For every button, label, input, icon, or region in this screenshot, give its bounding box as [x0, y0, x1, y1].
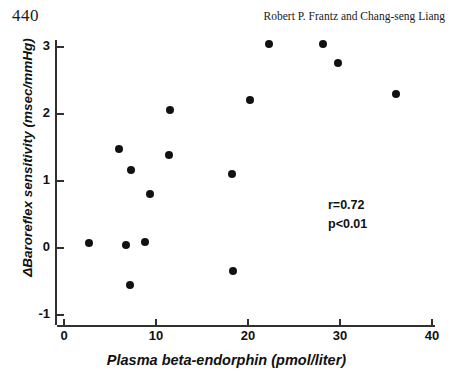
data-point [165, 151, 173, 159]
data-point [246, 96, 254, 104]
y-tick-label: 2 [32, 105, 50, 120]
scatter-plot-figure: ΔBaroreflex sensitivity (msec/mmHg) Plas… [0, 0, 453, 385]
x-tick-label: 20 [231, 328, 265, 343]
y-tick-label: 3 [32, 38, 50, 53]
data-point [228, 170, 236, 178]
y-tick-mark [57, 247, 64, 249]
data-point [115, 145, 123, 153]
x-tick-mark [247, 319, 249, 326]
correlation-value: r=0.72 [328, 196, 367, 215]
x-tick-mark [155, 319, 157, 326]
y-axis-line [55, 40, 57, 325]
data-point [85, 239, 93, 247]
y-tick-mark [57, 113, 64, 115]
y-tick-mark [57, 180, 64, 182]
pvalue: p<0.01 [328, 215, 367, 234]
x-tick-mark [431, 319, 433, 326]
x-axis-title: Plasma beta-endorphin (pmol/liter) [0, 352, 453, 368]
y-tick-label: 1 [32, 172, 50, 187]
data-point [166, 106, 174, 114]
statistics-annotation: r=0.72 p<0.01 [328, 196, 367, 234]
data-point [127, 166, 135, 174]
y-tick-label: 0 [32, 239, 50, 254]
y-tick-label: -1 [32, 306, 50, 321]
x-tick-label: 10 [139, 328, 173, 343]
x-tick-label: 30 [323, 328, 357, 343]
plot-area [64, 47, 432, 315]
data-point [122, 241, 130, 249]
y-axis-title: ΔBaroreflex sensitivity (msec/mmHg) [20, 13, 35, 303]
y-tick-mark [57, 46, 64, 48]
x-axis-line [57, 325, 435, 327]
data-point [141, 238, 149, 246]
x-tick-label: 40 [415, 328, 449, 343]
x-tick-mark [63, 319, 65, 326]
y-tick-mark [57, 314, 64, 316]
x-tick-label: 0 [47, 328, 81, 343]
data-point [392, 90, 400, 98]
x-tick-mark [339, 319, 341, 326]
